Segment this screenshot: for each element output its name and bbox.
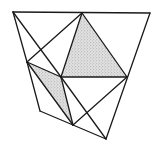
edge-AD: [13, 12, 27, 62]
geometric-diagram: [0, 0, 160, 147]
